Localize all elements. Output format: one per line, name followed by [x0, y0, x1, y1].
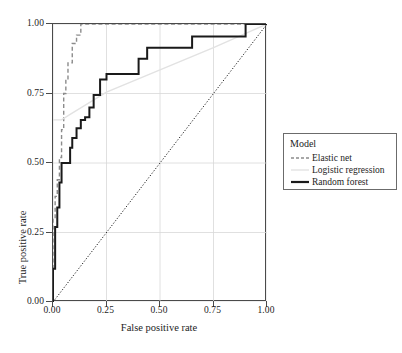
legend-entry[interactable]: Logistic regression: [290, 164, 396, 176]
x-tick-label: 0.50: [139, 305, 179, 315]
y-axis-title: True positive rate: [17, 168, 28, 328]
legend-entry[interactable]: Random forest: [290, 176, 396, 188]
legend-entry-label: Logistic regression: [310, 164, 385, 176]
legend-key-line-icon: [290, 176, 310, 188]
x-axis-tick-labels: 0.000.250.500.751.00: [0, 305, 402, 319]
legend-entry-label: Random forest: [310, 176, 368, 188]
plot-area: [52, 23, 266, 301]
legend-entry-label: Elastic net: [310, 152, 352, 164]
legend: Model Elastic netLogistic regressionRand…: [283, 133, 397, 190]
x-axis-title: False positive rate: [52, 322, 266, 333]
legend-entries: Elastic netLogistic regressionRandom for…: [290, 152, 396, 188]
legend-title: Model: [290, 138, 396, 150]
x-tick-label: 0.25: [86, 305, 126, 315]
plot-svg: [53, 24, 267, 302]
roc-curve-figure: 0.000.250.500.751.00 0.000.250.500.751.0…: [0, 0, 402, 353]
legend-entry[interactable]: Elastic net: [290, 152, 396, 164]
y-axis-title-holder: True positive rate: [2, 92, 18, 232]
legend-key-line-icon: [290, 164, 310, 176]
x-tick-label: 1.00: [246, 305, 286, 315]
y-tick-label: 1.00: [10, 18, 44, 28]
x-tick-label: 0.00: [32, 305, 72, 315]
legend-key-line-icon: [290, 152, 310, 164]
figure-canvas: 0.000.250.500.751.00 0.000.250.500.751.0…: [0, 0, 402, 353]
x-tick-label: 0.75: [193, 305, 233, 315]
